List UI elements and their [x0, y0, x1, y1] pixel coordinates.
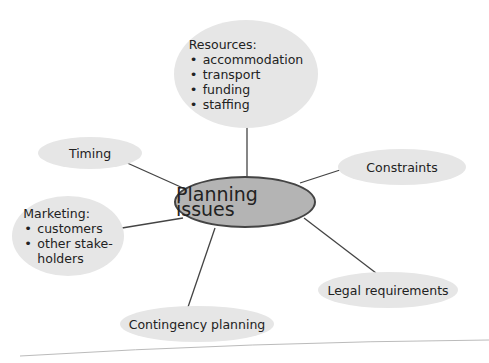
node-marketing: Marketing: customers other stake-holders [12, 196, 124, 276]
constraints-label: Constraints [366, 160, 437, 175]
resources-item: accommodation [203, 52, 304, 67]
node-legal-requirements: Legal requirements [318, 272, 458, 308]
node-resources: Resources: accommodation transport fundi… [174, 20, 318, 128]
center-label: Planning issues [176, 187, 314, 217]
resources-item: transport [203, 67, 304, 82]
marketing-title: Marketing: [23, 206, 112, 221]
node-contingency-planning: Contingency planning [120, 306, 274, 342]
resources-title: Resources: [189, 37, 304, 52]
legal-label: Legal requirements [327, 283, 448, 298]
marketing-item: other stake-holders [37, 236, 112, 266]
timing-label: Timing [69, 146, 111, 161]
resources-item: funding [203, 82, 304, 97]
marketing-item: customers [37, 221, 112, 236]
contingency-label: Contingency planning [129, 317, 266, 332]
node-constraints: Constraints [338, 149, 466, 185]
node-timing: Timing [38, 137, 142, 169]
central-node-planning-issues: Planning issues [174, 176, 316, 228]
resources-item: staffing [203, 97, 304, 112]
